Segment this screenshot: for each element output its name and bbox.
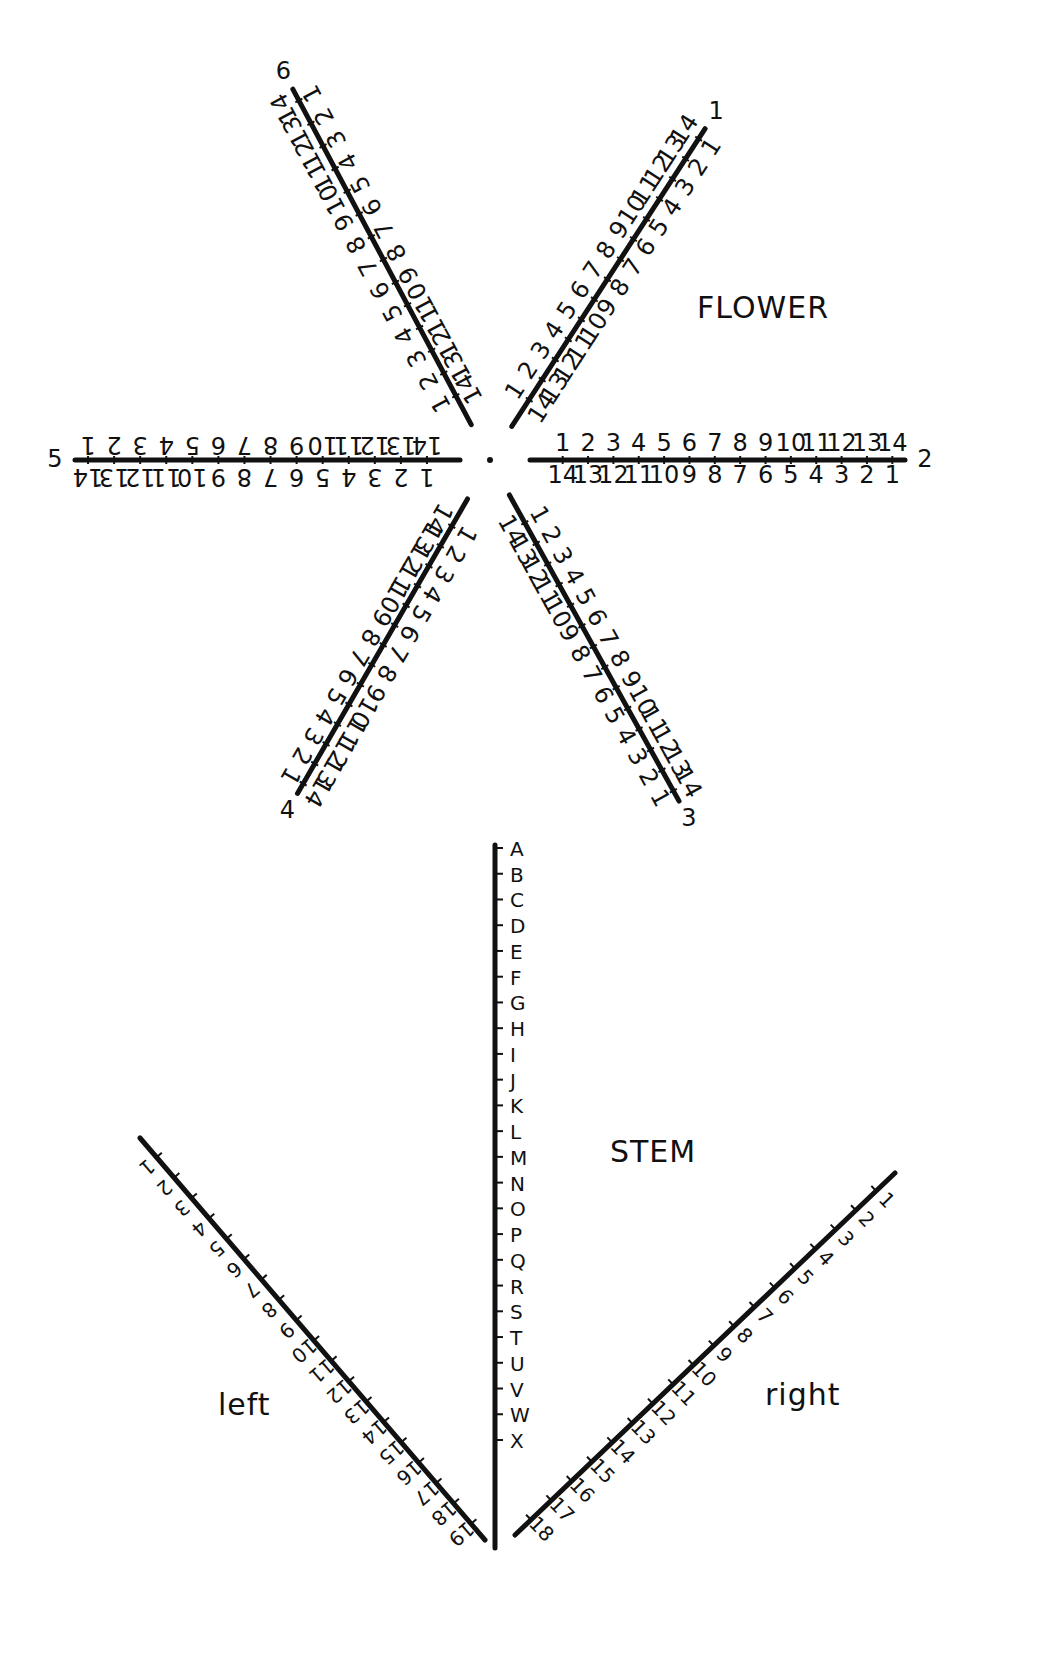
arm-outer-number: 7 xyxy=(263,463,278,491)
stem-letter: K xyxy=(510,1094,524,1118)
arm-inner-number: 1 xyxy=(885,461,900,489)
arm-inner-number: 6 xyxy=(357,194,389,221)
arm-outer-number: 2 xyxy=(439,541,471,568)
arm-number-label: 5 xyxy=(47,445,62,473)
flower-title: FLOWER xyxy=(697,290,829,325)
arm-outer-number: 2 xyxy=(413,368,445,395)
arm-outer-number: 6 xyxy=(682,429,697,457)
flower-arms: 1142133124115106978879610511412313214111… xyxy=(47,57,932,832)
arm-6: 114213312411510697887961051141231321416 xyxy=(264,57,488,425)
arm-inner-number: 2 xyxy=(633,764,665,791)
right-leaf-scale: 123456789101112131415161718 xyxy=(515,1173,900,1546)
stem-letter: A xyxy=(510,837,524,861)
stem-letter: S xyxy=(510,1300,523,1324)
arm-number-label: 1 xyxy=(708,97,723,125)
arm-line xyxy=(512,129,705,427)
stem-letter: P xyxy=(510,1223,522,1247)
arm-inner-number: 4 xyxy=(309,703,341,730)
arm-inner-number: 1 xyxy=(80,431,95,459)
stem-letter: F xyxy=(510,966,522,990)
arm-outer-number: 3 xyxy=(547,542,579,569)
arm-inner-number: 7 xyxy=(733,461,748,489)
arm-inner-number: 7 xyxy=(237,431,252,459)
arm-1: 114213312411510697887961051141231321411 xyxy=(499,97,727,428)
arm-inner-number: 3 xyxy=(133,431,148,459)
arm-inner-number: 5 xyxy=(344,171,376,198)
arm-inner-number: 9 xyxy=(682,461,697,489)
stem-letter: T xyxy=(509,1326,523,1350)
arm-inner-number: 9 xyxy=(289,431,304,459)
arm-inner-number: 7 xyxy=(576,661,608,688)
arm-inner-number: 6 xyxy=(211,431,226,459)
arm-number-label: 6 xyxy=(276,57,291,85)
arm-inner-number: 6 xyxy=(587,682,619,709)
arm-outer-number: 1 xyxy=(524,501,556,528)
arm-inner-number: 8 xyxy=(564,640,596,667)
arm-outer-number: 9 xyxy=(211,463,226,491)
arm-inner-number: 1 xyxy=(644,785,676,812)
stem-letter: W xyxy=(510,1403,530,1427)
arm-number-label: 4 xyxy=(280,796,295,824)
stem-letter: D xyxy=(510,914,525,938)
arm-inner-number: 4 xyxy=(809,461,824,489)
arm-inner-number: 3 xyxy=(621,743,653,770)
arm-inner-number: 10 xyxy=(649,461,680,489)
arm-inner-number: 5 xyxy=(643,213,675,241)
stem-letter: L xyxy=(510,1120,522,1144)
arm-outer-number: 14 xyxy=(73,463,104,491)
arm-outer-number: 7 xyxy=(352,254,384,281)
arm-outer-number: 6 xyxy=(364,277,396,304)
arm-inner-number: 4 xyxy=(610,723,642,750)
arm-outer-number: 4 xyxy=(389,322,421,349)
arm-line xyxy=(509,495,679,801)
arm-outer-number: 4 xyxy=(631,429,646,457)
arm-outer-number: 1 xyxy=(425,390,457,417)
arm-inner-number: 5 xyxy=(783,461,798,489)
arm-outer-number: 7 xyxy=(707,429,722,457)
stem-scale: ABCDEFGHIJKLMNOPQRSTUVWX xyxy=(495,837,530,1548)
stem-letter: R xyxy=(510,1275,524,1299)
stem-letter: N xyxy=(510,1172,525,1196)
arm-inner-number: 5 xyxy=(320,683,352,710)
arm-inner-number: 4 xyxy=(332,148,364,175)
arm-inner-number: 3 xyxy=(669,173,701,201)
arm-inner-number: 8 xyxy=(263,431,278,459)
arm-inner-number: 8 xyxy=(604,273,636,301)
stem-letter: G xyxy=(510,991,526,1015)
left-leaf-label: left xyxy=(218,1387,271,1422)
arm-inner-number: 5 xyxy=(599,702,631,729)
arm-inner-number: 2 xyxy=(859,461,874,489)
left-leaf-line xyxy=(140,1138,485,1540)
arm-inner-number: 8 xyxy=(381,239,413,266)
stem-letter: M xyxy=(510,1146,527,1170)
arm-outer-number: 6 xyxy=(393,620,425,647)
arm-outer-number: 3 xyxy=(428,561,460,588)
stem-letter: H xyxy=(510,1017,525,1041)
arm-outer-number: 5 xyxy=(377,300,409,327)
arm-inner-number: 3 xyxy=(320,126,352,153)
arm-outer-number: 2 xyxy=(393,463,408,491)
arm-number-label: 3 xyxy=(681,804,696,832)
arm-outer-number: 1 xyxy=(555,429,570,457)
arm-3: 114213312411510697887961051141231321413 xyxy=(492,495,708,832)
arm-inner-number: 6 xyxy=(630,233,662,261)
arm-outer-number: 3 xyxy=(606,429,621,457)
arm-outer-number: 6 xyxy=(289,463,304,491)
arm-outer-number: 4 xyxy=(341,463,356,491)
arm-inner-number: 8 xyxy=(707,461,722,489)
arm-inner-number: 1 xyxy=(296,80,328,107)
stem-letter: E xyxy=(510,940,523,964)
arm-outer-number: 8 xyxy=(237,463,252,491)
stem-letter: J xyxy=(508,1069,516,1093)
arm-number-label: 2 xyxy=(917,445,932,473)
arm-inner-number: 2 xyxy=(286,743,318,770)
arm-inner-number: 7 xyxy=(343,644,375,671)
arm-outer-number: 8 xyxy=(340,231,372,258)
arm-outer-number: 8 xyxy=(733,429,748,457)
stem-letter: V xyxy=(510,1378,524,1402)
stem-letter: U xyxy=(510,1352,525,1376)
arm-outer-number: 1 xyxy=(419,463,434,491)
flower-stem-diagram: 1142133124115106978879610511412313214111… xyxy=(0,0,1041,1658)
arm-inner-number: 7 xyxy=(617,253,649,281)
arm-outer-number: 9 xyxy=(758,429,773,457)
